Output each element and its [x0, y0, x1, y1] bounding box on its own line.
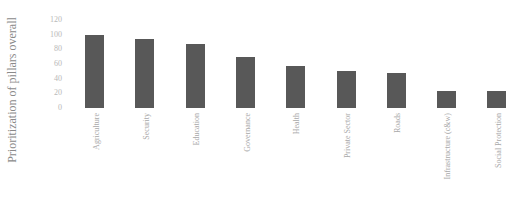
category-text: Infrastructure (c&w) [444, 113, 453, 179]
y-tick-label: 40 [32, 75, 62, 83]
category-text: Health [293, 113, 302, 134]
category-text: Security [142, 113, 151, 140]
bar [437, 91, 456, 108]
y-axis-title: Prioritization of pillars overall [5, 17, 20, 163]
bar [186, 44, 205, 108]
y-tick-label: 20 [32, 89, 62, 97]
bar [487, 91, 506, 108]
x-category-label: Agriculture [89, 113, 101, 202]
category-text: Social Protection [494, 113, 503, 168]
x-category-label: Social Protection [491, 113, 503, 202]
bar-chart: Prioritization of pillars overall 020406… [0, 0, 528, 202]
y-tick-label: 120 [32, 16, 62, 24]
x-category-label: Private Sector [340, 113, 352, 202]
bar [236, 57, 255, 108]
y-axis-label: Prioritization of pillars overall [2, 0, 22, 180]
bar [85, 35, 104, 109]
x-category-label: Security [139, 113, 151, 202]
category-text: Agriculture [92, 113, 101, 150]
bar [286, 66, 305, 108]
x-category-label: Roads [390, 113, 402, 202]
bar [135, 39, 154, 108]
category-text: Roads [393, 113, 402, 133]
y-tick-label: 60 [32, 60, 62, 68]
y-tick-label: 80 [32, 45, 62, 53]
x-category-label: Health [290, 113, 302, 202]
bar [337, 71, 356, 108]
x-category-label: Education [189, 113, 201, 202]
bar [387, 73, 406, 108]
x-category-label: Governance [239, 113, 251, 202]
category-text: Governance [242, 113, 251, 152]
category-text: Private Sector [343, 113, 352, 158]
x-category-label: Infrastructure (c&w) [441, 113, 453, 202]
category-text: Education [192, 113, 201, 145]
y-tick-label: 100 [32, 31, 62, 39]
y-tick-label: 0 [32, 104, 62, 112]
